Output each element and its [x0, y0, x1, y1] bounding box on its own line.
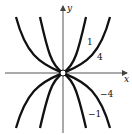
- curve-1-mirror: [40, 17, 63, 73]
- origin-open-circle: [60, 70, 66, 76]
- x-axis-label: x: [124, 74, 129, 84]
- family-of-curves-plot: y x 1 4 −4 −1: [0, 0, 132, 135]
- curve-minus1: [63, 73, 86, 128]
- curve-label-1: 1: [87, 37, 93, 47]
- curve-label-minus1: −1: [88, 109, 101, 119]
- curve-minus1-mirror: [40, 73, 63, 128]
- curve-label-minus4: −4: [100, 89, 114, 99]
- curve-label-4: 4: [97, 52, 103, 62]
- curve-1: [63, 17, 86, 73]
- y-axis-label: y: [66, 3, 73, 13]
